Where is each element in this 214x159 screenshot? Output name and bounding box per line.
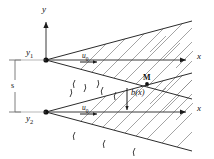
lower-wedge-bottom-edge (46, 112, 192, 151)
merge-point-label: M (143, 74, 151, 82)
spacing-dimension (9, 60, 46, 112)
merge-point-dot (145, 82, 149, 86)
origin-label-upper: y1 (26, 48, 33, 59)
lower-wedge-top-edge (46, 73, 192, 112)
velocity-label-upper-subscript: 0 (86, 56, 89, 62)
origin-label-lower: y2 (26, 114, 33, 125)
spacing-label: s (11, 82, 14, 90)
velocity-label-lower: u0 (82, 104, 88, 114)
boundary-arc-ticks (70, 80, 135, 156)
x-axis-label-upper: x (197, 52, 201, 61)
figure-container: y x x y1 y2 s u0 u0 M b(x) (0, 0, 214, 159)
hatch-upper-wedge (30, 20, 214, 135)
wedge-diagram (0, 0, 214, 159)
upper-wedge-bottom-edge (46, 60, 192, 99)
x-axis-label-lower: x (197, 104, 201, 113)
y-axis-label: y (42, 5, 46, 14)
velocity-label-lower-subscript: 0 (86, 108, 89, 114)
origin-label-lower-subscript: 2 (30, 118, 33, 125)
width-function-label: b(x) (131, 88, 145, 97)
upper-wedge-top-edge (46, 21, 192, 60)
velocity-label-upper: u0 (82, 52, 88, 62)
origin-label-upper-subscript: 1 (30, 52, 33, 59)
